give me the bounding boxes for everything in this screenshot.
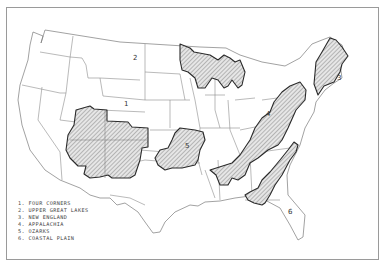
region-appalachia[interactable] bbox=[210, 82, 306, 185]
region-new-england[interactable] bbox=[314, 38, 348, 95]
region-upper-great-lakes[interactable] bbox=[180, 44, 245, 88]
region-four-corners[interactable] bbox=[66, 106, 148, 178]
region-label-3: 3 bbox=[337, 74, 341, 82]
region-label-2: 2 bbox=[133, 54, 137, 62]
region-ozarks[interactable] bbox=[155, 128, 205, 170]
region-label-4: 4 bbox=[266, 110, 271, 118]
legend-item-appalachia: 4. APPALACHIA bbox=[18, 221, 88, 228]
legend: 1. FOUR CORNERS 2. UPPER GREAT LAKES 3. … bbox=[18, 200, 88, 243]
region-label-5: 5 bbox=[185, 142, 189, 150]
legend-item-coastal-plain: 6. COASTAL PLAIN bbox=[18, 235, 88, 242]
state-boundaries bbox=[22, 36, 300, 205]
region-label-1: 1 bbox=[124, 100, 128, 108]
legend-item-upper-great-lakes: 2. UPPER GREAT LAKES bbox=[18, 207, 88, 214]
legend-item-new-england: 3. NEW ENGLAND bbox=[18, 214, 88, 221]
legend-item-four-corners: 1. FOUR CORNERS bbox=[18, 200, 88, 207]
region-label-6: 6 bbox=[288, 208, 293, 216]
legend-item-ozarks: 5. OZARKS bbox=[18, 228, 88, 235]
